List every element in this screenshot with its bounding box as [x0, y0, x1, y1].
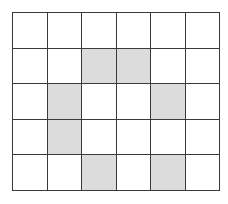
grid-cell: [13, 84, 48, 120]
grid-cell: [82, 13, 117, 49]
grid-cell: [151, 120, 186, 156]
grid-cell-shaded: [117, 49, 152, 85]
grid-cell: [117, 155, 152, 191]
grid-cell: [48, 13, 83, 49]
grid-cell: [151, 13, 186, 49]
grid-cell: [13, 49, 48, 85]
grid-cell: [186, 120, 221, 156]
grid-cell: [13, 155, 48, 191]
grid-cell-shaded: [151, 155, 186, 191]
grid-cell-shaded: [82, 49, 117, 85]
grid-cell: [186, 13, 221, 49]
grid-cell: [186, 84, 221, 120]
grid-cell: [48, 155, 83, 191]
grid-cell-shaded: [48, 84, 83, 120]
grid-cell: [82, 120, 117, 156]
grid-cell-shaded: [82, 155, 117, 191]
grid-cell-shaded: [151, 84, 186, 120]
grid-cell: [117, 84, 152, 120]
grid-cell: [82, 84, 117, 120]
grid-cell: [117, 120, 152, 156]
grid-cell: [13, 120, 48, 156]
shaded-grid-diagram: [12, 12, 220, 191]
grid-cell: [151, 49, 186, 85]
grid-cell: [186, 155, 221, 191]
grid-cell: [186, 49, 221, 85]
grid-cell: [13, 13, 48, 49]
grid-cell: [48, 49, 83, 85]
grid-cell: [117, 13, 152, 49]
grid-cell-shaded: [48, 120, 83, 156]
